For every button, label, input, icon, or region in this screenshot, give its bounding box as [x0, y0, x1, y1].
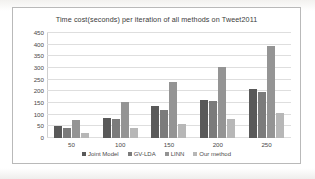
chart-screenshot: Time cost(seconds) per iteration of all … — [0, 0, 315, 179]
y-tick-label: 50 — [37, 122, 44, 129]
bar[interactable] — [258, 92, 266, 138]
legend-swatch-icon — [128, 152, 132, 156]
legend-item[interactable]: Our method — [193, 151, 231, 157]
legend-item[interactable]: Joint Model — [82, 151, 119, 157]
bar[interactable] — [169, 82, 177, 138]
bar[interactable] — [130, 128, 138, 138]
bar[interactable] — [209, 101, 217, 138]
bar-group — [96, 33, 145, 138]
bar-group — [193, 33, 242, 138]
y-tick-label: 200 — [34, 87, 44, 94]
bar[interactable] — [103, 118, 111, 138]
legend-label: GV-LDA — [134, 151, 156, 157]
y-tick-label: 100 — [34, 110, 44, 117]
bar[interactable] — [81, 133, 89, 138]
chart-frame: Time cost(seconds) per iteration of all … — [12, 7, 301, 164]
y-tick-label: 0 — [41, 134, 44, 141]
bar[interactable] — [121, 102, 129, 138]
x-tick-label: 150 — [145, 141, 194, 148]
chart-legend: Joint ModelGV-LDALINNOur method — [13, 151, 300, 157]
y-tick-label: 300 — [34, 64, 44, 71]
bar[interactable] — [54, 126, 62, 138]
legend-swatch-icon — [193, 152, 197, 156]
bar-groups — [47, 33, 291, 138]
legend-swatch-icon — [82, 152, 86, 156]
x-tick-label: 200 — [193, 141, 242, 148]
legend-item[interactable]: LINN — [165, 151, 185, 157]
x-tick-label: 50 — [47, 141, 96, 148]
legend-item[interactable]: GV-LDA — [128, 151, 156, 157]
plot-area: 450400350300250200150100500 — [47, 33, 291, 138]
bar[interactable] — [218, 67, 226, 138]
bar[interactable] — [276, 113, 284, 138]
bar[interactable] — [200, 100, 208, 139]
bar[interactable] — [160, 110, 168, 138]
bar[interactable] — [112, 119, 120, 138]
legend-label: Our method — [199, 151, 231, 157]
x-tick-label: 100 — [96, 141, 145, 148]
bar[interactable] — [267, 46, 275, 138]
bar[interactable] — [178, 124, 186, 138]
bar[interactable] — [249, 89, 257, 138]
y-tick-label: 350 — [34, 52, 44, 59]
x-tick-label: 250 — [242, 141, 291, 148]
bar-group — [47, 33, 96, 138]
bar-group — [145, 33, 194, 138]
legend-swatch-icon — [165, 152, 169, 156]
bar[interactable] — [151, 106, 159, 138]
y-tick-label: 450 — [34, 29, 44, 36]
y-tick-label: 400 — [34, 40, 44, 47]
bar[interactable] — [63, 128, 71, 138]
bar[interactable] — [227, 119, 235, 138]
y-tick-label: 150 — [34, 99, 44, 106]
chart-title: Time cost(seconds) per iteration of all … — [13, 15, 300, 24]
legend-label: Joint Model — [88, 151, 119, 157]
y-tick-label: 250 — [34, 75, 44, 82]
bar-group — [242, 33, 291, 138]
legend-label: LINN — [171, 151, 185, 157]
bar[interactable] — [72, 120, 80, 138]
x-axis-labels: 50100150200250 — [47, 141, 291, 148]
